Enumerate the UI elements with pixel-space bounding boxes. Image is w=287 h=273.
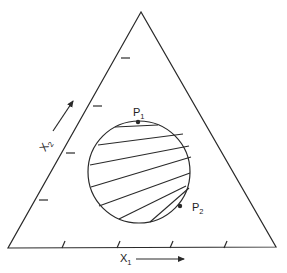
axis-tick: [117, 241, 120, 248]
chord-line: [115, 125, 158, 127]
chord-line: [99, 173, 190, 206]
chord-line: [119, 186, 186, 219]
chord-line: [98, 134, 183, 145]
point-p1-label: P1: [133, 106, 145, 121]
feasible-region-circle: [88, 121, 190, 223]
triangle-outline: [8, 12, 276, 248]
x2-axis-label: X2: [37, 101, 73, 155]
svg-text:X1: X1: [120, 252, 132, 267]
point-p2-label: P2: [192, 201, 204, 216]
labeled-points: P1P2: [133, 106, 204, 216]
x1-axis-label: X1: [120, 252, 184, 267]
x2-axis-ticks: [39, 58, 130, 200]
svg-text:X2: X2: [37, 137, 56, 155]
ternary-diagram: P1P2 X1 X2: [0, 0, 287, 273]
axis-tick: [62, 241, 65, 248]
x2-arrow-icon: [53, 101, 73, 131]
chord-line: [150, 188, 189, 222]
point-p2-marker: [178, 204, 182, 208]
